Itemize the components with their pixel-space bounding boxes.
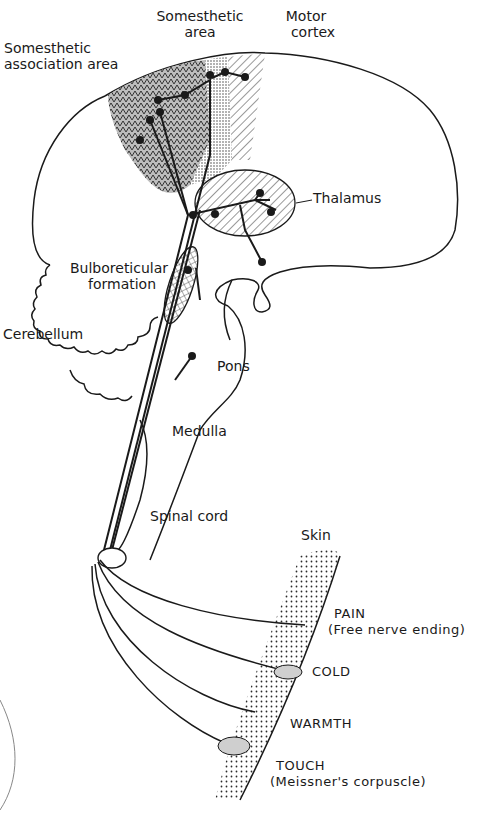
label-line: Motor bbox=[266, 8, 346, 24]
label-thalamus: Thalamus bbox=[313, 190, 381, 206]
label-somesthetic-area: Somesthetic area bbox=[140, 8, 260, 40]
label-line: cortex bbox=[266, 24, 346, 40]
label-motor-cortex: Motor cortex bbox=[266, 8, 346, 40]
label-skin: Skin bbox=[301, 527, 331, 543]
label-line: Somesthetic bbox=[4, 40, 118, 56]
label-receptor-pain: PAIN (Free nerve ending) bbox=[334, 606, 465, 638]
label-line: area bbox=[140, 24, 260, 40]
label-cerebellum: Cerebellum bbox=[3, 326, 83, 342]
label-line: association area bbox=[4, 56, 118, 72]
somesthetic-association-area bbox=[108, 60, 210, 193]
label-receptor-warmth: WARMTH bbox=[290, 716, 352, 732]
spinal-cord-section bbox=[98, 548, 126, 568]
label-receptor-cold: COLD bbox=[312, 664, 351, 680]
receptor-name: TOUCH bbox=[276, 758, 426, 774]
motor-cortex-region bbox=[228, 54, 265, 160]
label-medulla: Medulla bbox=[172, 423, 227, 439]
label-line: Somesthetic bbox=[140, 8, 260, 24]
label-bulboreticular-formation: Bulboreticular formation bbox=[70, 260, 168, 292]
receptor-detail: (Meissner's corpuscle) bbox=[270, 774, 426, 790]
receptor-name: PAIN bbox=[334, 606, 465, 622]
label-somesthetic-association-area: Somesthetic association area bbox=[4, 40, 118, 72]
diagram-artwork bbox=[0, 0, 489, 820]
label-line: formation bbox=[70, 276, 168, 292]
label-pons: Pons bbox=[217, 358, 250, 374]
label-line: Bulboreticular bbox=[70, 260, 168, 276]
sensory-pathway-diagram: Somesthetic area Motor cortex Somestheti… bbox=[0, 0, 489, 820]
receptor-detail: (Free nerve ending) bbox=[328, 622, 465, 638]
label-receptor-touch: TOUCH (Meissner's corpuscle) bbox=[276, 758, 426, 790]
label-spinal-cord: Spinal cord bbox=[150, 508, 228, 524]
